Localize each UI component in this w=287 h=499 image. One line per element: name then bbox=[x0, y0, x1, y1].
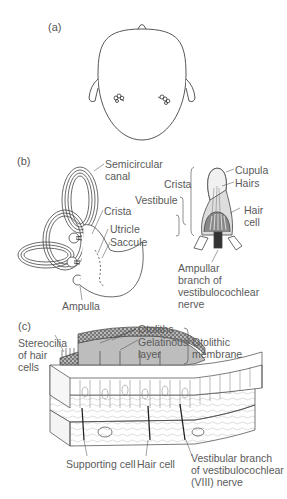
label-otoliths: Otoliths bbox=[138, 323, 174, 335]
label-vestibular-branch-2: of vestibulocochlear bbox=[191, 464, 284, 476]
label-ampullar-branch-3: vestibulocochlear bbox=[178, 286, 259, 298]
diagram-canvas bbox=[0, 0, 287, 499]
label-ampullar-branch-2: branch of bbox=[178, 274, 222, 286]
label-vestibular-branch: Vestibular branch bbox=[191, 452, 272, 464]
label-ampulla: Ampulla bbox=[62, 300, 100, 312]
label-ampullar-branch-4: nerve bbox=[178, 298, 204, 310]
label-gelatinous-layer: Gelatinous bbox=[138, 336, 188, 348]
label-saccule: Saccule bbox=[110, 236, 147, 248]
label-hair-cell: Hair bbox=[244, 204, 263, 216]
label-crista-right: Crista bbox=[164, 178, 191, 190]
panel-c-label: (c) bbox=[18, 320, 31, 332]
label-stereocilia-3: cells bbox=[18, 361, 39, 373]
label-otolithic-membrane-2: membrane bbox=[192, 348, 242, 360]
label-semicircular-canal-2: canal bbox=[105, 170, 130, 182]
panel-b-label: (b) bbox=[17, 155, 30, 167]
label-ampullar-branch: Ampullar bbox=[178, 262, 219, 274]
label-vestibular-branch-3: (VIII) nerve bbox=[191, 476, 243, 488]
label-semicircular-canal: Semicircular bbox=[105, 158, 163, 170]
label-cupula: Cupula bbox=[235, 164, 268, 176]
label-hair-cell-c: Hair cell bbox=[137, 458, 175, 470]
label-stereocilia: Stereocilia bbox=[18, 337, 67, 349]
label-hair-cell-2: cell bbox=[244, 216, 260, 228]
label-vestibule: Vestibule bbox=[135, 194, 178, 206]
label-crista-left: Crista bbox=[104, 205, 131, 217]
label-gelatinous-layer-2: layer bbox=[138, 348, 161, 360]
panel-a-label: (a) bbox=[48, 21, 61, 33]
label-hairs: Hairs bbox=[235, 177, 260, 189]
label-supporting-cell: Supporting cell bbox=[66, 458, 135, 470]
label-utricle: Utricle bbox=[110, 223, 140, 235]
label-otolithic-membrane: Otolithic bbox=[192, 336, 230, 348]
head-top-view bbox=[89, 25, 195, 141]
label-stereocilia-2: of hair bbox=[18, 349, 47, 361]
